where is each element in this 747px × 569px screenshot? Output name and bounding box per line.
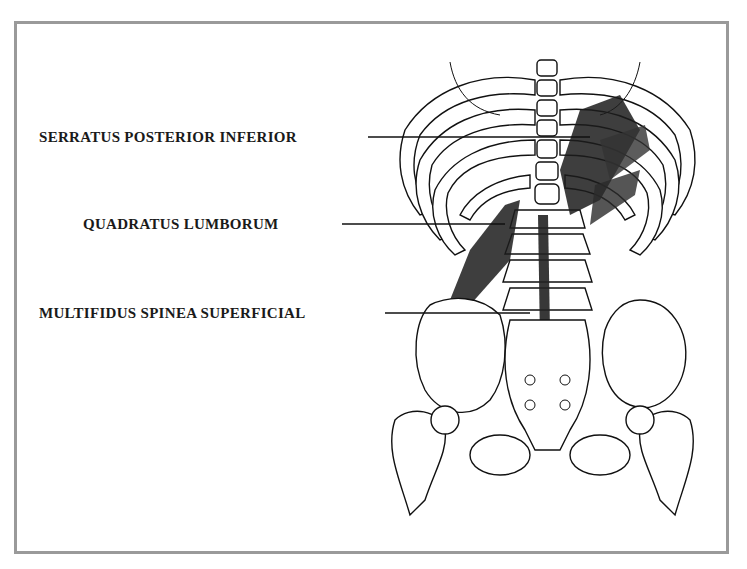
pelvis [392,298,694,515]
label-multifidus-spinea-superficial: MULTIFIDUS SPINEA SUPERFICIAL [39,306,306,321]
label-serratus-posterior-inferior: SERRATUS POSTERIOR INFERIOR [39,130,297,145]
label-quadratus-lumborum: QUADRATUS LUMBORUM [83,217,279,232]
anatomy-illustration [0,0,747,569]
